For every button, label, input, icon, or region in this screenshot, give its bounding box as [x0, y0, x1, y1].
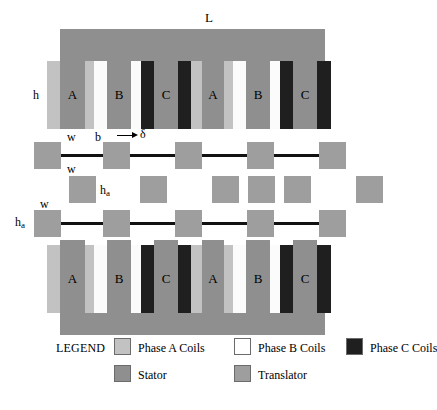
coil-phase-a — [85, 61, 94, 129]
coil-phase-a — [224, 61, 233, 129]
translator-block — [34, 210, 61, 237]
coil-phase-a — [191, 61, 202, 129]
coil-phase-c — [280, 61, 293, 129]
airgap-arrow-line — [117, 135, 133, 136]
legend-label-phase-b: Phase B Coils — [258, 341, 325, 356]
translator-row-3 — [0, 210, 422, 240]
translator-block — [69, 176, 96, 203]
translator-block — [247, 210, 274, 237]
coil-phase-a — [47, 61, 60, 129]
coil-phase-a — [224, 245, 233, 313]
coil-phase-b — [233, 61, 246, 129]
slot-letter: B — [107, 88, 131, 101]
slot-letter: C — [154, 272, 178, 285]
legend-row-2: Stator Translator — [56, 365, 422, 385]
coil-phase-c — [178, 245, 191, 313]
legend-swatch-stator — [114, 365, 131, 382]
translator-block — [284, 176, 311, 203]
coil-phase-b — [131, 245, 141, 313]
translator-block — [356, 176, 383, 203]
coil-phase-c — [141, 245, 154, 313]
translator-block — [248, 176, 275, 203]
stator-bottom: A B C A B C — [0, 240, 422, 340]
slot-letter: C — [293, 88, 317, 101]
coil-phase-c — [317, 61, 331, 129]
translator-block — [319, 210, 346, 237]
label-stator-height-h: h — [33, 89, 39, 101]
label-translator-height-ha: ha — [100, 184, 110, 198]
coil-phase-b — [94, 61, 107, 129]
translator-block — [175, 142, 202, 169]
translator-block — [319, 142, 346, 169]
legend-row-1: Phase A Coils Phase B Coils Phase C Coil… — [56, 338, 422, 358]
slot-letter: B — [107, 272, 131, 285]
slot-letter: A — [202, 88, 224, 101]
translator-block — [247, 142, 274, 169]
slot-letter: A — [60, 88, 85, 101]
coil-phase-c — [280, 245, 293, 313]
translator-block — [175, 210, 202, 237]
slot-letter: C — [154, 88, 178, 101]
legend-label-phase-a: Phase A Coils — [138, 341, 205, 356]
stator-top-yoke — [60, 29, 325, 61]
translator-row-2 — [0, 176, 422, 206]
translator-block — [140, 176, 167, 203]
coil-phase-a — [191, 245, 202, 313]
coil-phase-c — [317, 245, 331, 313]
legend-label-stator: Stator — [138, 368, 167, 383]
coil-phase-b — [233, 245, 246, 313]
legend-swatch-phase-c — [346, 338, 363, 355]
coil-phase-c — [178, 61, 191, 129]
label-ha-subscript: a — [21, 220, 25, 230]
translator-block — [212, 176, 239, 203]
legend-label-phase-c: Phase C Coils — [370, 341, 437, 356]
stator-bottom-yoke — [60, 313, 325, 335]
label-translator-width-w: w — [67, 163, 76, 175]
coil-phase-c — [141, 61, 154, 129]
slot-letter: B — [246, 88, 270, 101]
legend-label-translator: Translator — [258, 368, 307, 383]
legend-swatch-translator — [234, 365, 251, 382]
label-ha-subscript: a — [106, 188, 110, 198]
label-airgap-delta: δ — [140, 128, 146, 140]
translator-block — [103, 142, 130, 169]
legend-swatch-phase-a — [114, 338, 131, 355]
translator-block — [34, 142, 61, 169]
label-translator-width-w: w — [40, 198, 49, 210]
slot-letter: A — [60, 272, 85, 285]
coil-phase-b — [270, 245, 280, 313]
coil-phase-b — [131, 61, 141, 129]
coil-phase-b — [94, 245, 107, 313]
translator-block — [103, 210, 130, 237]
slot-letter: A — [202, 272, 224, 285]
label-translator-height-ha: ha — [15, 216, 25, 230]
coil-phase-b — [270, 61, 280, 129]
slot-letter: B — [246, 272, 270, 285]
slot-letter: C — [293, 272, 317, 285]
airgap-arrow-head — [132, 132, 138, 138]
stator-top: A B C A B C — [0, 0, 422, 140]
legend-swatch-phase-b — [234, 338, 251, 355]
coil-phase-a — [47, 245, 60, 313]
translator-row-1 — [0, 142, 422, 172]
legend: LEGEND Phase A Coils Phase B Coils Phase… — [56, 338, 422, 402]
coil-phase-a — [85, 245, 94, 313]
